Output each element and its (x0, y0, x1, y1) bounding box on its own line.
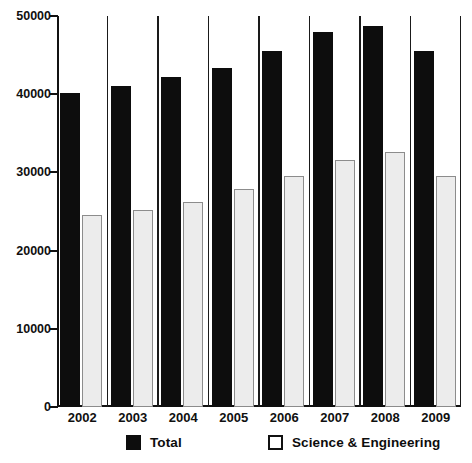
bar-total-2007 (313, 32, 333, 407)
group-separator-line (208, 16, 210, 407)
group-separator-line (107, 16, 109, 407)
y-tick-label: 0 (44, 400, 51, 414)
y-tick-label: 10000 (16, 322, 51, 336)
bar-science-engineering-2007 (335, 160, 355, 407)
bar-science-engineering-2005 (234, 189, 254, 407)
bar-science-engineering-2008 (385, 152, 405, 407)
plot-area (57, 16, 461, 407)
bar-total-2002 (60, 93, 80, 407)
x-tick-label-2007: 2007 (320, 410, 349, 425)
y-tick-label: 50000 (16, 9, 51, 23)
bar-chart: 01000020000300004000050000 2002200320042… (0, 0, 472, 463)
group-separator-line (258, 16, 260, 407)
x-tick-label-2009: 2009 (421, 410, 450, 425)
group-separator-line (309, 16, 311, 407)
bar-total-2004 (161, 77, 181, 407)
legend-label-total: Total (150, 435, 182, 450)
bar-science-engineering-2004 (183, 202, 203, 407)
group-separator-line (157, 16, 159, 407)
bar-science-engineering-2002 (82, 215, 102, 407)
bar-science-engineering-2009 (436, 176, 456, 407)
legend-swatch-science-engineering-icon (268, 435, 283, 450)
group-separator-line (359, 16, 361, 407)
x-tick-label-2003: 2003 (118, 410, 147, 425)
bar-science-engineering-2006 (284, 176, 304, 407)
legend-item-science-engineering: Science & Engineering (268, 435, 440, 450)
chart-legend: Total Science & Engineering (0, 433, 472, 459)
bar-total-2006 (262, 51, 282, 407)
legend-label-science-engineering: Science & Engineering (292, 435, 440, 450)
legend-item-total: Total (126, 435, 182, 450)
bar-total-2009 (414, 51, 434, 407)
bar-science-engineering-2003 (133, 210, 153, 407)
x-tick-label-2008: 2008 (371, 410, 400, 425)
x-tick-label-2002: 2002 (68, 410, 97, 425)
legend-swatch-total-icon (126, 435, 141, 450)
x-tick-label-2004: 2004 (169, 410, 198, 425)
y-tick-label: 20000 (16, 244, 51, 258)
bar-total-2005 (212, 68, 232, 407)
x-tick-label-2005: 2005 (219, 410, 248, 425)
group-separator-line (410, 16, 412, 407)
plot-right-border (460, 16, 462, 407)
bar-total-2008 (363, 26, 383, 407)
y-tick-label: 40000 (16, 87, 51, 101)
x-tick-label-2006: 2006 (270, 410, 299, 425)
bar-total-2003 (111, 86, 131, 407)
y-tick-label: 30000 (16, 165, 51, 179)
